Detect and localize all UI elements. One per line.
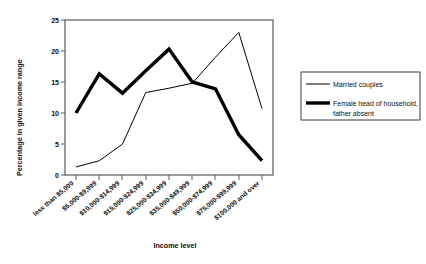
y-tick-label-0: 0 [55,172,59,179]
x-axis-ticks [76,175,262,180]
chart-figure: Percentage in given income range 25 20 1… [0,0,426,264]
x-tick-label-6: $50,000-$74,999 [171,179,215,217]
y-axis-title: Percentage in given income range [15,59,24,176]
y-tick-label-20: 20 [51,48,59,55]
line-chart-svg: Percentage in given income range 25 20 1… [0,0,426,264]
series-line-married-couples [76,32,262,167]
series-line-female-head-of-household [76,49,262,161]
legend-label-female-head-of-household-line2: father absent [333,110,374,117]
legend-label-married-couples: Married couples [333,81,383,89]
y-tick-label-5: 5 [55,141,59,148]
x-axis-category-labels: less than $5,000 $5,000-$9,999 $10,000-$… [31,179,261,222]
y-tick-label-10: 10 [51,110,59,117]
x-axis-title: Income level [153,241,196,250]
legend-label-female-head-of-household-line1: Female head of household, [333,100,418,107]
x-tick-label-2: $10,000-$14,999 [78,179,122,217]
chart-legend: Married couples Female head of household… [301,72,420,120]
x-tick-label-8: $100,000 and over [213,179,262,222]
y-tick-label-25: 25 [51,17,59,24]
y-tick-label-15: 15 [51,79,59,86]
